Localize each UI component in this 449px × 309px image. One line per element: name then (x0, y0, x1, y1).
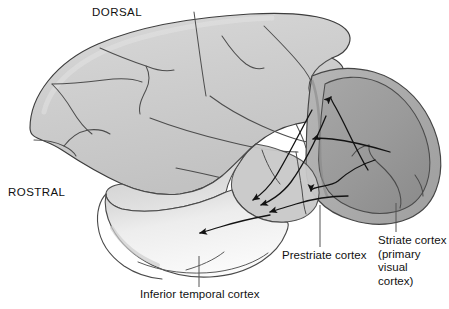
brain-diagram-figure: DORSAL ROSTRAL Prestriate cortex Striate… (0, 0, 449, 309)
orientation-label-dorsal: DORSAL (92, 6, 142, 20)
striate-cortex-region (306, 69, 441, 225)
orientation-label-rostral: ROSTRAL (8, 186, 65, 200)
region-label-prestriate-cortex: Prestriate cortex (282, 249, 367, 263)
region-label-inferior-temporal-cortex: Inferior temporal cortex (140, 288, 259, 302)
region-label-striate-cortex: Striate cortex (primary visual cortex) (378, 234, 449, 288)
